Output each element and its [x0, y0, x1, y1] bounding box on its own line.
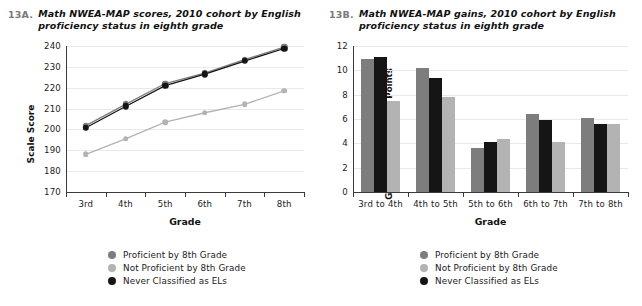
bar: [471, 148, 484, 192]
bar: [552, 142, 565, 192]
legend-swatch-icon: [420, 251, 428, 259]
panel-b-bars: [353, 46, 628, 192]
y-tick-label: 10: [337, 65, 348, 75]
y-tick-label: 0: [342, 187, 348, 197]
y-tick-label: 180: [44, 166, 61, 176]
panel-b-number: 13B.: [329, 8, 354, 32]
x-tick-mark: [518, 192, 519, 197]
panel-b-plot-area: Gains in Scale Score Points 024681012 3r…: [321, 34, 642, 234]
bar: [429, 78, 442, 192]
bar: [594, 124, 607, 192]
panel-a-y-axis-label: Scale Score: [26, 105, 36, 164]
data-point: [162, 119, 168, 125]
data-point: [242, 102, 248, 108]
legend-swatch-icon: [108, 277, 116, 285]
bar: [581, 118, 594, 192]
x-tick-mark: [225, 192, 226, 197]
y-tick-label: 8: [342, 90, 348, 100]
x-tick-mark: [408, 192, 409, 197]
bar: [442, 97, 455, 193]
y-tick-label: 2: [342, 163, 348, 173]
panel-a-line-paths: [66, 46, 304, 192]
x-tick-mark: [145, 192, 146, 197]
y-tick-label: 240: [44, 41, 61, 51]
panel-a-title-row: 13A. Math NWEA-MAP scores, 2010 cohort b…: [0, 0, 321, 32]
legend-swatch-icon: [108, 251, 116, 259]
bar: [607, 124, 620, 192]
x-tick-label: 7th: [237, 199, 252, 209]
bar: [497, 139, 510, 192]
legend-item-label: Proficient by 8th Grade: [435, 250, 539, 260]
x-tick-label: 5th to 6th: [468, 199, 513, 209]
panel-13a: 13A. Math NWEA-MAP scores, 2010 cohort b…: [0, 0, 321, 306]
x-tick-mark: [106, 192, 107, 197]
bar: [361, 59, 374, 192]
x-tick-mark: [573, 192, 574, 197]
x-tick-mark: [628, 192, 629, 197]
legend-item-proficient[interactable]: Proficient by 8th Grade: [108, 248, 321, 261]
panel-b-canvas: 024681012 3rd to 4th4th to 5th5th to 6th…: [353, 46, 628, 192]
x-tick-label: 5th: [158, 199, 173, 209]
panel-a-plot-area: Scale Score 170180190200210220230240 3rd…: [0, 34, 321, 234]
panel-b-title: Math NWEA-MAP gains, 2010 cohort by Engl…: [359, 8, 632, 32]
figure-container: 13A. Math NWEA-MAP scores, 2010 cohort b…: [0, 0, 642, 306]
y-tick-label: 12: [337, 41, 348, 51]
bar: [416, 68, 429, 192]
y-tick-label: 170: [44, 187, 61, 197]
legend-item-label: Never Classified as ELs: [435, 276, 539, 286]
y-tick-label: 4: [342, 138, 348, 148]
panel-a-title: Math NWEA-MAP scores, 2010 cohort by Eng…: [38, 8, 311, 32]
panel-a-canvas: 170180190200210220230240 3rd4th5th6th7th…: [66, 46, 304, 192]
y-tick-label: 6: [342, 114, 348, 124]
panel-b-title-row: 13B. Math NWEA-MAP gains, 2010 cohort by…: [321, 0, 642, 32]
x-tick-mark: [264, 192, 265, 197]
bar: [484, 142, 497, 192]
legend-item-label: Not Proficient by 8th Grade: [435, 263, 558, 273]
legend-swatch-icon: [420, 277, 428, 285]
y-tick-label: 200: [44, 124, 61, 134]
panel-a-legend: Proficient by 8th GradeNot Proficient by…: [0, 248, 321, 287]
x-tick-mark: [304, 192, 305, 197]
x-tick-label: 4th: [118, 199, 133, 209]
bar: [526, 114, 539, 192]
x-tick-mark: [66, 192, 67, 197]
y-tick-label: 210: [44, 104, 61, 114]
data-point: [83, 152, 89, 158]
legend-swatch-icon: [420, 264, 428, 272]
x-tick-label: 8th: [277, 199, 292, 209]
y-tick-label: 220: [44, 83, 61, 93]
legend-item-proficient[interactable]: Proficient by 8th Grade: [420, 248, 642, 261]
legend-item-label: Never Classified as ELs: [123, 276, 227, 286]
panel-b-x-axis-title: Grade: [353, 216, 628, 227]
panel-b-legend: Proficient by 8th GradeNot Proficient by…: [321, 248, 642, 287]
bar: [374, 57, 387, 192]
x-tick-label: 6th: [197, 199, 212, 209]
legend-item-never_el[interactable]: Never Classified as ELs: [108, 274, 321, 287]
y-tick-label: 190: [44, 145, 61, 155]
panel-13b: 13B. Math NWEA-MAP gains, 2010 cohort by…: [321, 0, 642, 306]
panel-a-x-axis-title: Grade: [66, 216, 304, 227]
bar: [539, 120, 552, 192]
legend-item-label: Proficient by 8th Grade: [123, 250, 227, 260]
legend-swatch-icon: [108, 264, 116, 272]
legend-item-not_proficient[interactable]: Not Proficient by 8th Grade: [420, 261, 642, 274]
legend-item-label: Not Proficient by 8th Grade: [123, 263, 246, 273]
x-tick-mark: [463, 192, 464, 197]
panel-b-x-axis-line: [353, 192, 628, 193]
x-tick-label: 3rd: [78, 199, 93, 209]
legend-item-never_el[interactable]: Never Classified as ELs: [420, 274, 642, 287]
x-tick-label: 4th to 5th: [413, 199, 458, 209]
y-tick-label: 230: [44, 62, 61, 72]
x-tick-mark: [185, 192, 186, 197]
x-tick-label: 3rd to 4th: [358, 199, 403, 209]
legend-item-not_proficient[interactable]: Not Proficient by 8th Grade: [108, 261, 321, 274]
x-tick-label: 7th to 8th: [578, 199, 623, 209]
bar: [387, 101, 400, 192]
x-tick-mark: [353, 192, 354, 197]
panel-a-number: 13A.: [8, 8, 33, 32]
data-point: [123, 136, 129, 142]
data-point: [202, 110, 208, 116]
x-tick-label: 6th to 7th: [523, 199, 568, 209]
data-point: [281, 88, 287, 94]
